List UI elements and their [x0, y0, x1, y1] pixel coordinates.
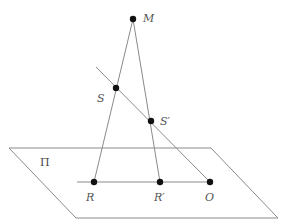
label-r: R	[85, 191, 94, 204]
point-s-prime	[148, 118, 154, 124]
projection-diagram: MSS′RR′O Π	[0, 0, 288, 224]
label-s: S	[97, 92, 105, 105]
point-m	[130, 16, 136, 22]
point-r-prime	[157, 179, 163, 185]
label-m: M	[142, 12, 155, 25]
line-M-Rprime	[133, 19, 160, 182]
point-s	[113, 85, 119, 91]
plane-label: Π	[40, 156, 50, 169]
label-r-prime: R′	[153, 191, 165, 204]
line-S-O	[96, 67, 210, 182]
label-o: O	[205, 191, 214, 204]
point-o	[207, 179, 213, 185]
label-s-prime: S′	[160, 115, 171, 128]
point-r	[91, 179, 97, 185]
